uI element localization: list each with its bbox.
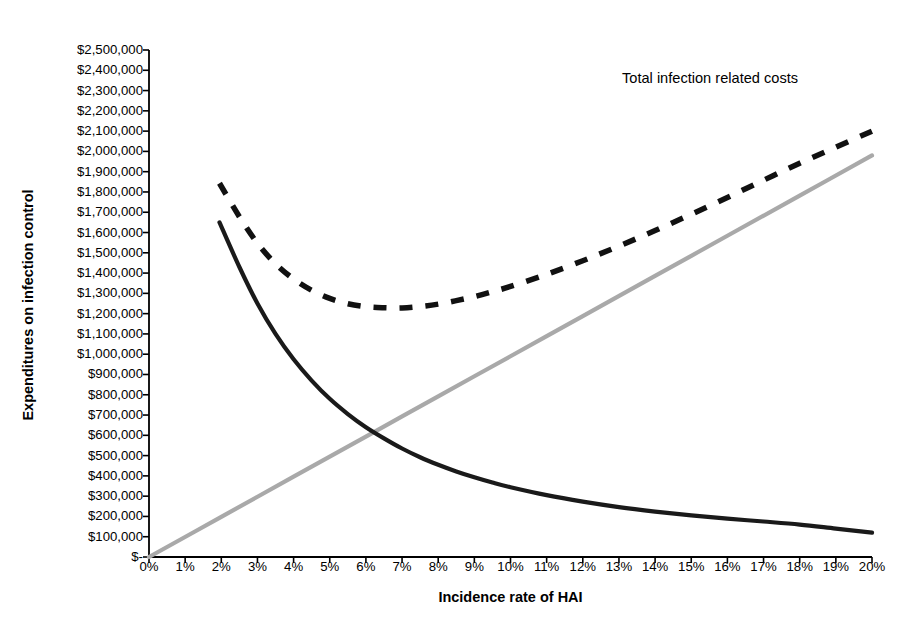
- plot-area: [0, 0, 914, 644]
- series-infection-related-cost: [149, 155, 872, 557]
- series-total-infection-related-costs: [219, 131, 872, 308]
- series-group: [149, 131, 872, 557]
- chart-root: Expenditures on infection control $2,500…: [0, 0, 914, 644]
- series-infection-control-expenditure: [219, 222, 872, 532]
